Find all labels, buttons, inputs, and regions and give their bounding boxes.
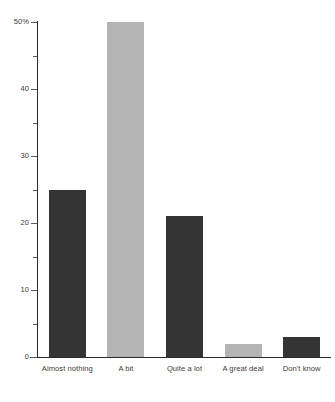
x-tick-label: Don't know: [272, 364, 331, 374]
y-tick-label-text: 10: [0, 286, 29, 294]
y-tick-label-text: 40: [0, 85, 29, 93]
y-tick-label: 50%: [0, 18, 29, 28]
bar: [49, 190, 86, 358]
x-tick-label: A bit: [97, 364, 156, 374]
y-tick-label: 20: [0, 219, 29, 229]
y-tick-label-text: 0: [0, 353, 29, 361]
y-tick-major: [31, 223, 37, 224]
y-tick-major: [31, 290, 37, 291]
x-axis-line: [30, 357, 331, 358]
x-tick-label: Quite a lot: [155, 364, 214, 374]
x-tick-label: Almost nothing: [38, 364, 97, 374]
y-tick-label-text: 30: [0, 152, 29, 160]
y-tick-label-text: 50%: [0, 18, 29, 26]
y-tick-label: 40: [0, 85, 29, 95]
bar: [107, 22, 144, 357]
y-tick-label-text: 20: [0, 219, 29, 227]
y-tick-major: [31, 89, 37, 90]
bar: [283, 337, 320, 357]
y-tick-minor: [33, 190, 37, 191]
y-tick-label: 30: [0, 152, 29, 162]
y-tick-minor: [33, 257, 37, 258]
bar-chart: 01020304050% Almost nothingA bitQuite a …: [0, 0, 335, 402]
y-tick-minor: [33, 56, 37, 57]
y-tick-label: 0: [0, 353, 29, 363]
y-tick-minor: [33, 123, 37, 124]
y-tick-minor: [33, 324, 37, 325]
bar: [166, 216, 203, 357]
y-tick-label: 10: [0, 286, 29, 296]
bar: [225, 344, 262, 357]
y-tick-major: [31, 22, 37, 23]
y-tick-major: [31, 357, 37, 358]
y-axis-line: [37, 21, 38, 358]
x-tick-label: A great deal: [214, 364, 273, 374]
y-tick-major: [31, 156, 37, 157]
